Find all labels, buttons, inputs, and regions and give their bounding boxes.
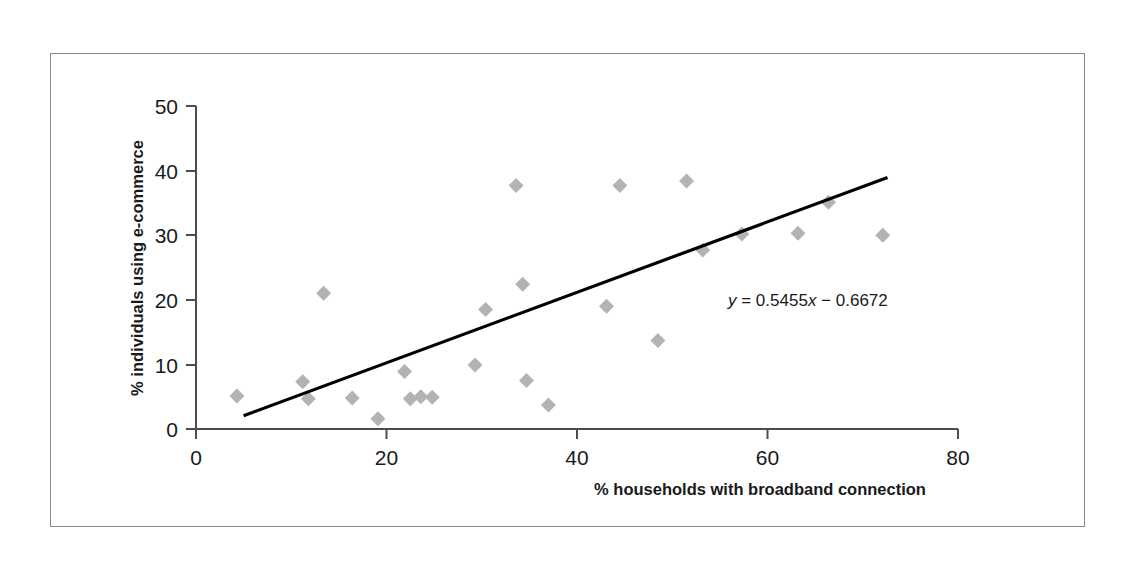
data-point xyxy=(397,364,412,379)
data-point xyxy=(509,178,524,193)
data-point xyxy=(370,411,385,426)
y-axis-title: % individuals using e-commerce xyxy=(128,140,146,396)
data-point xyxy=(295,374,310,389)
x-tick-label-0: 0 xyxy=(190,446,202,469)
data-point xyxy=(790,226,805,241)
data-point xyxy=(519,373,534,388)
trendline-equation: y = 0.5455x − 0.6672 xyxy=(727,291,888,310)
data-point xyxy=(425,390,440,405)
data-point xyxy=(650,333,665,348)
y-tick-label-0: 0 xyxy=(166,418,178,441)
equation-coefficient: = 0.5455 xyxy=(737,291,808,310)
y-tick-label-50: 50 xyxy=(155,95,178,118)
x-tick-label-20: 20 xyxy=(375,446,398,469)
data-point xyxy=(229,389,244,404)
x-tick-label-40: 40 xyxy=(565,446,588,469)
data-point xyxy=(612,178,627,193)
scatter-plot: 50 40 30 20 10 0 0 20 40 60 80 % househo… xyxy=(0,0,1133,561)
x-tick-label-60: 60 xyxy=(756,446,779,469)
x-axis-title: % households with broadband connection xyxy=(594,480,926,498)
data-point xyxy=(316,286,331,301)
x-tick-label-80: 80 xyxy=(946,446,969,469)
y-tick-label-10: 10 xyxy=(155,354,178,377)
data-point xyxy=(478,302,493,317)
data-point xyxy=(541,398,556,413)
data-point xyxy=(345,390,360,405)
y-tick-label-40: 40 xyxy=(155,160,178,183)
equation-intercept: − 0.6672 xyxy=(816,291,887,310)
data-point xyxy=(875,228,890,243)
y-axis-ticks xyxy=(186,106,196,429)
data-point xyxy=(468,358,483,373)
data-point xyxy=(599,299,614,314)
data-point xyxy=(679,173,694,188)
y-tick-label-20: 20 xyxy=(155,289,178,312)
y-tick-label-30: 30 xyxy=(155,224,178,247)
equation-x-symbol: x xyxy=(807,291,817,310)
data-point xyxy=(515,277,530,292)
x-axis-ticks xyxy=(196,429,958,439)
